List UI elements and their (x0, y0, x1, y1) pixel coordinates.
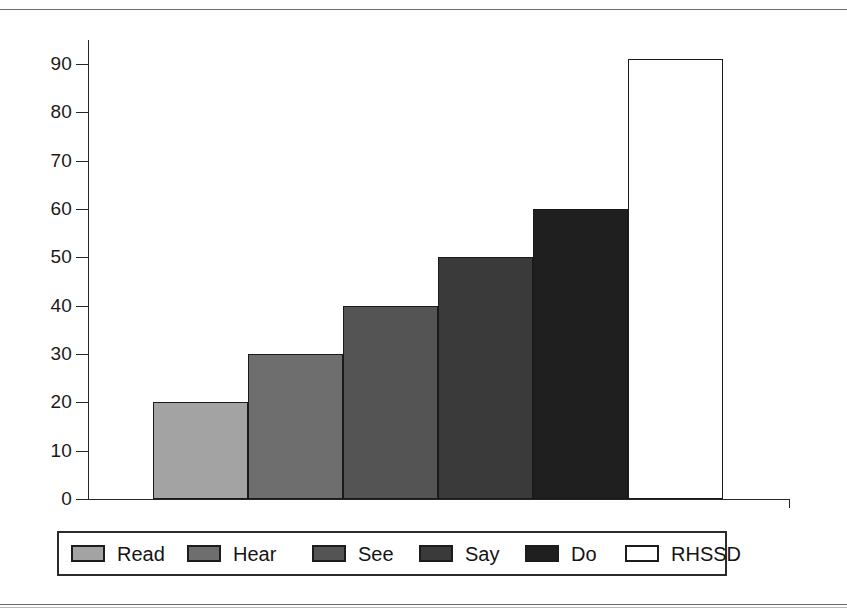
legend-label: See (358, 544, 394, 564)
chart-legend: ReadHearSeeSayDoRHSSD (57, 531, 727, 576)
bar-read (153, 402, 248, 499)
legend-swatch-read (71, 545, 105, 562)
legend-swatch-hear (187, 545, 221, 562)
legend-swatch-do (525, 545, 559, 562)
legend-swatch-say (419, 545, 453, 562)
y-axis-tick (76, 499, 88, 500)
legend-label: Hear (233, 544, 276, 564)
bar-chart-figure: 9080706050403020100 ReadHearSeeSayDoRHSS… (0, 0, 847, 615)
legend-item-hear: Hear (187, 544, 276, 564)
legend-item-do: Do (525, 544, 597, 564)
legend-swatch-rhssd (625, 545, 659, 562)
bar-hear (248, 354, 343, 499)
bar-group (0, 0, 847, 499)
x-axis-end-tick (789, 499, 790, 508)
legend-label: Say (465, 544, 499, 564)
legend-label: RHSSD (671, 544, 741, 564)
x-axis-line (88, 499, 790, 500)
legend-item-see: See (312, 544, 394, 564)
plot-area: 9080706050403020100 (0, 0, 847, 615)
bar-rhssd (628, 59, 723, 499)
legend-label: Read (117, 544, 165, 564)
legend-label: Do (571, 544, 597, 564)
bar-see (343, 306, 438, 499)
legend-item-rhssd: RHSSD (625, 544, 741, 564)
bar-do (533, 209, 628, 499)
bar-say (438, 257, 533, 499)
legend-swatch-see (312, 545, 346, 562)
legend-item-say: Say (419, 544, 499, 564)
legend-item-read: Read (71, 544, 165, 564)
